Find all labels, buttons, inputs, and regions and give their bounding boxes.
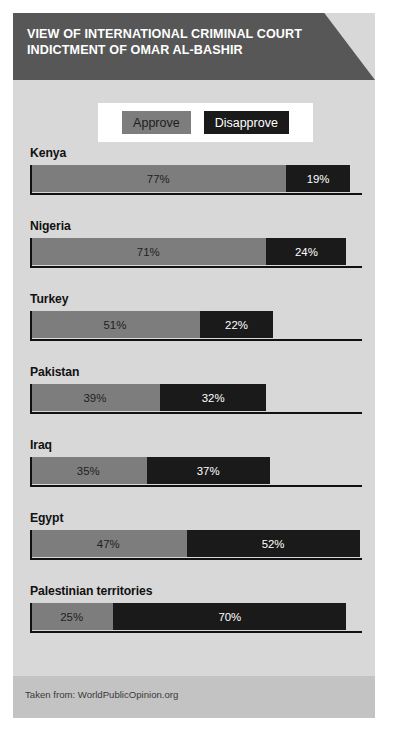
bar-group: Nigeria71%24%	[13, 219, 375, 292]
axis-baseline	[30, 485, 362, 487]
bar-group: Pakistan39%32%	[13, 365, 375, 438]
stacked-bar: 25%70%	[30, 603, 346, 630]
footer-band: Taken from: WorldPublicOpinion.org	[13, 676, 375, 718]
axis-tick	[30, 311, 32, 341]
axis-tick	[30, 238, 32, 268]
axis-baseline	[30, 339, 362, 341]
source-note: Taken from: WorldPublicOpinion.org	[25, 689, 178, 700]
axis-baseline	[30, 631, 362, 633]
stacked-bar: 39%32%	[30, 384, 266, 411]
page-title-line-1: VIEW OF INTERNATIONAL CRIMINAL COURT	[27, 26, 337, 42]
page-title: VIEW OF INTERNATIONAL CRIMINAL COURT IND…	[27, 26, 337, 58]
stacked-bar: 71%24%	[30, 238, 346, 265]
page-title-line-2: INDICTMENT OF OMAR AL-BASHIR	[27, 42, 337, 58]
axis-tick	[30, 457, 32, 487]
bar-segment-disapprove: 70%	[113, 603, 346, 630]
stacked-bar: 77%19%	[30, 165, 350, 192]
bar-segment-approve: 25%	[30, 603, 113, 630]
country-label: Palestinian territories	[30, 584, 152, 598]
bar-segment-approve: 35%	[30, 457, 147, 484]
stacked-bar: 51%22%	[30, 311, 273, 338]
country-label: Pakistan	[30, 365, 79, 379]
axis-baseline	[30, 412, 362, 414]
axis-baseline	[30, 266, 362, 268]
stacked-bar: 35%37%	[30, 457, 270, 484]
bar-group: Kenya77%19%	[13, 146, 375, 219]
bar-segment-approve: 51%	[30, 311, 200, 338]
legend-item-approve: Approve	[122, 111, 191, 134]
country-label: Iraq	[30, 438, 52, 452]
bar-segment-disapprove: 37%	[147, 457, 270, 484]
legend-item-disapprove: Disapprove	[204, 111, 289, 134]
bar-segment-disapprove: 32%	[160, 384, 267, 411]
bar-segment-approve: 71%	[30, 238, 266, 265]
bar-segment-approve: 47%	[30, 530, 187, 557]
bar-group: Turkey51%22%	[13, 292, 375, 365]
bar-segment-approve: 39%	[30, 384, 160, 411]
bar-group: Iraq35%37%	[13, 438, 375, 511]
bar-segment-disapprove: 24%	[266, 238, 346, 265]
axis-tick	[30, 165, 32, 195]
bar-segment-disapprove: 52%	[187, 530, 360, 557]
axis-baseline	[30, 558, 362, 560]
chart-card: VIEW OF INTERNATIONAL CRIMINAL COURT IND…	[13, 13, 375, 718]
country-label: Nigeria	[30, 219, 71, 233]
header-banner: VIEW OF INTERNATIONAL CRIMINAL COURT IND…	[13, 13, 375, 80]
bar-group: Palestinian territories25%70%	[13, 584, 375, 657]
country-label: Kenya	[30, 146, 66, 160]
bar-segment-disapprove: 22%	[200, 311, 273, 338]
country-label: Turkey	[30, 292, 68, 306]
chart-legend: Approve Disapprove	[98, 103, 313, 142]
bar-segment-approve: 77%	[30, 165, 286, 192]
axis-tick	[30, 384, 32, 414]
country-label: Egypt	[30, 511, 63, 525]
axis-tick	[30, 603, 32, 633]
stacked-bar: 47%52%	[30, 530, 360, 557]
bar-group: Egypt47%52%	[13, 511, 375, 584]
axis-tick	[30, 530, 32, 560]
axis-baseline	[30, 193, 362, 195]
chart-plot-area: Kenya77%19%Nigeria71%24%Turkey51%22%Paki…	[13, 146, 375, 658]
bar-segment-disapprove: 19%	[286, 165, 349, 192]
